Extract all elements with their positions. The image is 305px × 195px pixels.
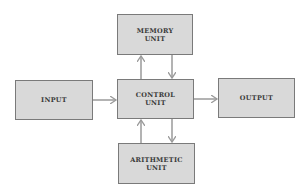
output-box: OUTPUT (218, 78, 295, 118)
memory-unit-box: MEMORYUNIT (117, 14, 193, 55)
output-label: OUTPUT (240, 94, 273, 102)
arithmetic-unit-box: ARITHMETICUNIT (118, 143, 195, 184)
block-diagram: MEMORYUNIT INPUT CONTROLUNIT OUTPUT ARIT… (0, 0, 305, 195)
memory-label-line2: UNIT (137, 35, 174, 43)
control-label-line1: CONTROL (136, 91, 175, 99)
control-unit-box: CONTROLUNIT (117, 79, 194, 119)
arithmetic-label-line1: ARITHMETIC (130, 156, 183, 164)
control-label-line2: UNIT (136, 99, 175, 107)
input-box: INPUT (15, 80, 93, 120)
arithmetic-label-line2: UNIT (130, 164, 183, 172)
memory-label-line1: MEMORY (137, 27, 174, 35)
input-label: INPUT (41, 96, 67, 104)
